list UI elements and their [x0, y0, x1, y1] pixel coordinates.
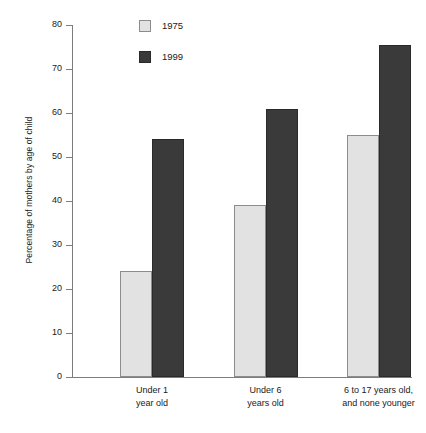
x-category-label-line: year old [92, 397, 212, 410]
bar-chart: Percentage of mothers by age of child 01… [0, 0, 426, 433]
y-tick-label: 50 [52, 151, 62, 162]
chart-legend: 19751999 [139, 19, 183, 81]
bar-1999-2 [379, 45, 411, 377]
legend-item-1999[interactable]: 1999 [139, 50, 183, 64]
y-tick: 0 [66, 377, 72, 378]
y-tick-label: 0 [57, 371, 62, 382]
x-category-label-2: 6 to 17 years old,and none younger [319, 384, 426, 410]
y-tick-label: 70 [52, 63, 62, 74]
bar-1975-0 [120, 271, 152, 377]
x-category-label-line: 6 to 17 years old, [319, 384, 426, 397]
y-tick-label: 80 [52, 19, 62, 30]
x-axis-labels: Under 1year oldUnder 6years old6 to 17 y… [72, 384, 412, 428]
x-category-label-line: years old [206, 397, 326, 410]
x-category-label-1: Under 6years old [206, 384, 326, 410]
legend-swatch-icon [139, 20, 151, 32]
y-tick-label: 60 [52, 107, 62, 118]
y-axis-title-text: Percentage of mothers by age of child [24, 117, 34, 264]
plot-area: 01020304050607080 [72, 25, 412, 377]
bar-1999-1 [266, 109, 298, 377]
x-category-label-0: Under 1year old [92, 384, 212, 410]
x-category-label-line: Under 6 [206, 384, 326, 397]
y-tick-label: 40 [52, 195, 62, 206]
x-category-label-line: Under 1 [92, 384, 212, 397]
legend-item-1975[interactable]: 1975 [139, 19, 183, 33]
bar-1975-2 [347, 135, 379, 377]
bar-1999-0 [152, 139, 184, 377]
legend-label: 1999 [162, 51, 183, 63]
bars-layer [72, 25, 412, 377]
legend-label: 1975 [162, 20, 183, 32]
legend-swatch-icon [139, 51, 151, 63]
y-axis-title: Percentage of mothers by age of child [22, 0, 36, 380]
y-tick-label: 30 [52, 239, 62, 250]
y-tick-label: 20 [52, 283, 62, 294]
bar-1975-1 [234, 205, 266, 377]
x-category-label-line: and none younger [319, 397, 426, 410]
y-tick-label: 10 [52, 327, 62, 338]
x-axis-line [66, 377, 412, 378]
